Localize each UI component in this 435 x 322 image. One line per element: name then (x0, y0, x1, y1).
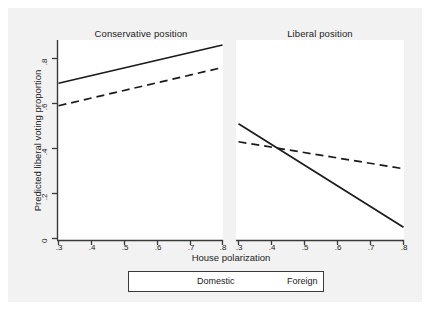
axis-right-panel (236, 240, 404, 245)
series-lines (59, 45, 404, 227)
legend-label-domestic: Domestic (197, 276, 235, 286)
chart-figure: Conservative position Liberal position P… (0, 0, 435, 322)
line-conservative-domestic (59, 45, 223, 83)
axis-left-panel (52, 40, 223, 245)
line-liberal-foreign (239, 142, 404, 169)
line-conservative-foreign (59, 68, 223, 106)
line-liberal-domestic (239, 124, 404, 228)
chart-legend[interactable]: Domestic Foreign (128, 271, 324, 292)
legend-label-foreign: Foreign (287, 276, 318, 286)
